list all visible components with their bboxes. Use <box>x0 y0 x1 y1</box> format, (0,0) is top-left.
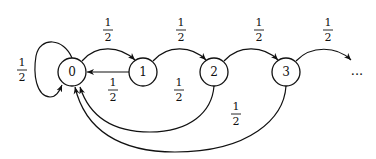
svg-text:1: 1 <box>233 100 240 113</box>
label-2-to-3: 1 2 <box>254 16 264 44</box>
svg-text:1: 1 <box>176 76 183 89</box>
edge-2-to-3 <box>224 49 278 61</box>
label-3-to-0: 1 2 <box>231 100 241 128</box>
node-3: 3 <box>272 58 300 86</box>
node-0-label: 0 <box>68 65 76 79</box>
svg-text:1: 1 <box>19 56 26 69</box>
svg-text:1: 1 <box>178 16 185 29</box>
svg-text:1: 1 <box>110 76 117 89</box>
label-2-to-0: 1 2 <box>174 76 184 104</box>
label-3-to-next: 1 2 <box>323 16 333 44</box>
node-0: 0 <box>58 58 86 86</box>
node-2: 2 <box>200 58 228 86</box>
svg-text:1: 1 <box>256 16 263 29</box>
node-2-label: 2 <box>210 65 218 79</box>
svg-text:2: 2 <box>325 31 332 44</box>
svg-text:2: 2 <box>110 91 117 104</box>
node-1: 1 <box>129 58 157 86</box>
label-0-to-1: 1 2 <box>103 16 113 44</box>
svg-text:1: 1 <box>325 16 332 29</box>
continuation-ellipsis: ... <box>351 63 363 78</box>
label-1-to-0: 1 2 <box>108 76 118 104</box>
svg-text:2: 2 <box>19 71 26 84</box>
edge-0-to-1 <box>82 49 135 61</box>
label-1-to-2: 1 2 <box>176 16 186 44</box>
node-3-label: 3 <box>282 65 290 79</box>
edges <box>35 42 351 152</box>
edge-2-to-0 <box>80 86 214 132</box>
edge-1-to-2 <box>153 49 206 61</box>
svg-text:2: 2 <box>105 31 112 44</box>
node-1-label: 1 <box>139 65 147 79</box>
edge-3-to-next <box>296 49 351 61</box>
svg-text:1: 1 <box>105 16 112 29</box>
svg-text:2: 2 <box>178 31 185 44</box>
svg-text:2: 2 <box>256 31 263 44</box>
svg-text:2: 2 <box>233 115 240 128</box>
label-0-to-0: 1 2 <box>17 56 27 84</box>
svg-text:2: 2 <box>176 91 183 104</box>
markov-chain-diagram: 0 1 2 3 ... 1 2 1 2 1 2 1 2 1 2 1 <box>0 0 376 159</box>
